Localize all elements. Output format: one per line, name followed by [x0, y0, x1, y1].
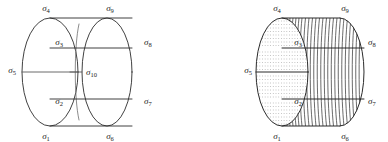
label-sigma5-right: σ5 — [244, 65, 252, 76]
label-sigma7-right: σ7 — [368, 96, 376, 107]
label-sigma6-left: σ6 — [106, 131, 114, 142]
label-sigma2-left: σ2 — [55, 96, 63, 107]
label-sigma3-left: σ3 — [55, 37, 63, 48]
label-sigma1-left: σ1 — [42, 131, 50, 142]
label-sigma3-right: σ3 — [294, 37, 302, 48]
label-sigma4-left: σ4 — [42, 3, 50, 14]
left-panel-labels: σ4 σ9 σ3 σ8 σ5 σ10 σ2 σ7 σ1 σ6 — [8, 3, 152, 142]
left-panel-outline-cylinder — [22, 18, 132, 126]
label-sigma1-right: σ1 — [273, 131, 281, 142]
label-sigma5-left: σ5 — [8, 65, 16, 76]
label-sigma4-right: σ4 — [273, 3, 281, 14]
label-sigma2-right: σ2 — [294, 96, 302, 107]
cylinder-diagram-svg: σ4 σ9 σ3 σ8 σ5 σ10 σ2 σ7 σ1 σ6 — [0, 0, 388, 142]
label-sigma10-left: σ10 — [86, 67, 97, 78]
label-sigma9-right: σ9 — [341, 3, 349, 14]
figure-root: σ4 σ9 σ3 σ8 σ5 σ10 σ2 σ7 σ1 σ6 — [0, 0, 388, 142]
label-sigma8-left: σ8 — [144, 37, 152, 48]
label-sigma9-left: σ9 — [106, 3, 114, 14]
label-sigma8-right: σ8 — [368, 37, 376, 48]
label-sigma6-right: σ6 — [341, 131, 349, 142]
label-sigma7-left: σ7 — [144, 96, 152, 107]
